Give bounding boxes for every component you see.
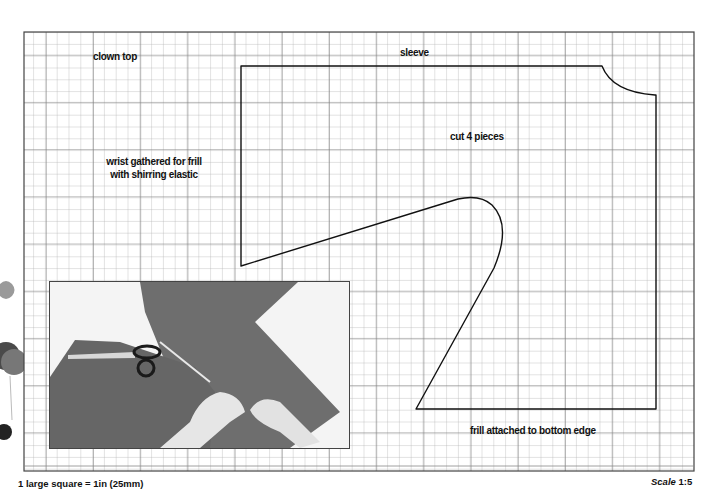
pattern-sheet: clown top sleeve cut 4 pieces wrist gath… [0,0,714,491]
scale-label: Scale [651,476,676,487]
scale-value: 1:5 [678,476,692,487]
sewing-photo [49,281,350,449]
piece-name-label: sleeve [400,47,429,58]
pattern-title: clown top [93,51,137,62]
scale-note: Scale 1:5 [651,476,692,487]
wrist-instruction-line1: wrist gathered for frill [94,155,214,168]
grid-key-note: 1 large square = 1in (25mm) [18,478,143,489]
photo-illustration [50,282,349,448]
wrist-instruction: wrist gathered for frill with shirring e… [94,155,214,181]
cut-instruction: cut 4 pieces [450,131,504,142]
bottom-instruction: frill attached to bottom edge [470,425,596,436]
wrist-instruction-line2: with shirring elastic [94,168,214,181]
